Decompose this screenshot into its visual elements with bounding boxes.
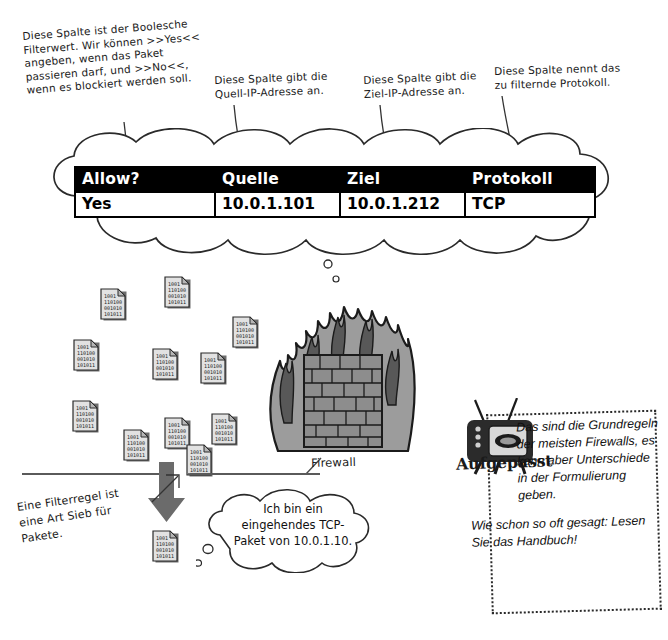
table-header-row: Allow? Quelle Ziel Protokoll	[75, 167, 595, 192]
packet-icon	[72, 400, 100, 434]
figure-canvas: Diese Spalte ist der Boolesche Filterwer…	[0, 0, 668, 640]
packet-icon	[200, 352, 228, 386]
firewall-label: Firewall	[311, 456, 356, 471]
annotation-arrow-filter-rule-icon	[150, 472, 190, 506]
firewall-rule-table: Allow? Quelle Ziel Protokoll Yes 10.0.1.…	[74, 166, 596, 218]
packet-icon	[152, 530, 180, 564]
cell-allow: Yes	[75, 192, 215, 217]
cell-protocol: TCP	[465, 192, 595, 217]
column-header-destination: Ziel	[340, 167, 465, 192]
column-header-allow: Allow?	[75, 167, 215, 192]
annotation-allow-column: Diese Spalte ist der Boolesche Filterwer…	[22, 14, 242, 98]
packet-icon	[232, 316, 260, 350]
annotation-destination-column: Diese Spalte gibt die Ziel-IP-Adresse an…	[363, 68, 499, 101]
packet-icon	[152, 348, 180, 382]
annotation-source-column: Diese Spalte gibt die Quell-IP-Adresse a…	[214, 69, 355, 101]
column-header-source: Quelle	[215, 167, 340, 192]
annotation-protocol-column: Diese Spalte nennt das zu filternde Prot…	[494, 61, 635, 92]
column-header-protocol: Protokoll	[465, 167, 595, 192]
packet-thought-text: Ich bin ein eingehendes TCP- Paket von 1…	[231, 501, 355, 549]
packet-icon	[100, 288, 128, 322]
watch-out-paragraph-2: Wie schon so oft gesagt: Lesen Sie das H…	[471, 512, 662, 552]
divider-right	[190, 473, 320, 475]
table-row: Yes 10.0.1.101 10.0.1.212 TCP	[75, 192, 595, 217]
cell-source: 10.0.1.101	[215, 192, 340, 217]
watch-out-text: Das sind die Grundregeln der meisten Fir…	[468, 415, 662, 564]
packet-icon	[164, 276, 192, 310]
packet-icon	[73, 339, 101, 373]
cell-destination: 10.0.1.212	[340, 192, 465, 217]
cloud-trail-dots-icon	[320, 258, 350, 286]
packet-icon	[123, 429, 151, 463]
watch-out-paragraph-1: Das sind die Grundregeln der meisten Fir…	[468, 415, 660, 506]
